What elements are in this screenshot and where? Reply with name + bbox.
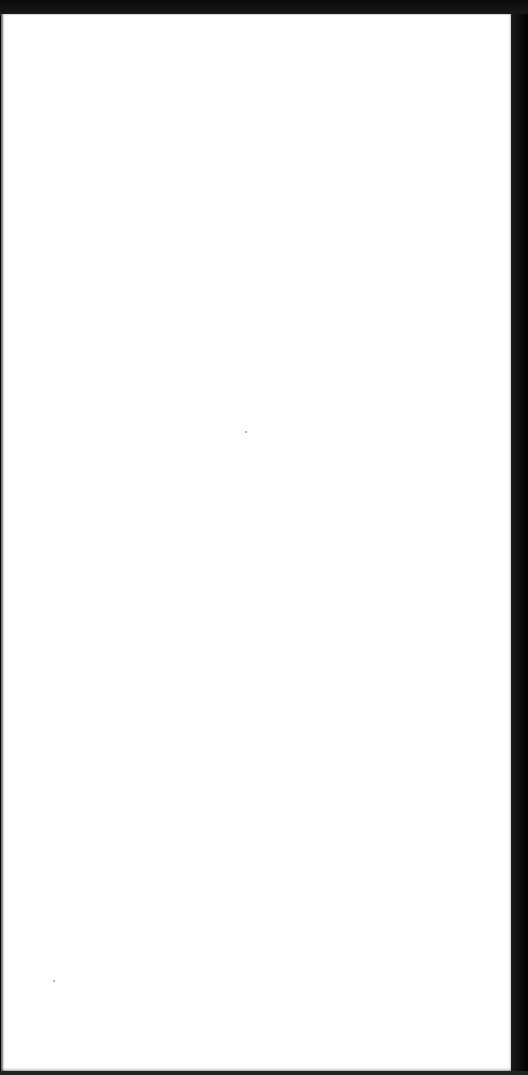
scan-speck xyxy=(245,431,247,433)
scan-bottom-edge xyxy=(0,1071,528,1075)
scan-speck xyxy=(53,980,55,982)
blank-page xyxy=(1,14,511,1072)
scan-right-edge xyxy=(511,14,528,1075)
